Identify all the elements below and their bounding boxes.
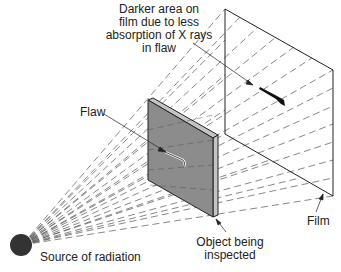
radiation-source [10,234,32,256]
flaw-label: Flaw [80,106,105,119]
darker-area-line-4: in flaw [94,42,224,55]
darker-area-label: Darker area on film due to less absorpti… [94,3,224,55]
object-slab [148,98,218,217]
film-label: Film [307,215,330,228]
object-label: Object being inspected [195,236,265,262]
film-dark-area [259,87,285,106]
film [225,9,333,196]
object-line-2: inspected [195,249,265,262]
source-label: Source of radiation [40,251,141,264]
